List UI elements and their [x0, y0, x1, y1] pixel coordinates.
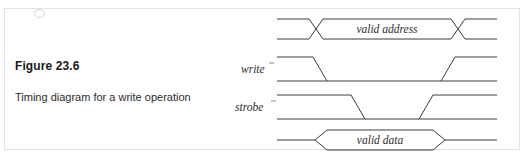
- write-signal-label: write: [241, 63, 265, 75]
- scan-artifact-icon: [34, 9, 45, 18]
- write-waveform-trace: [277, 57, 497, 81]
- strobe-waveform-trace: [277, 95, 497, 119]
- figure-caption-block: Figure 23.6 Timing diagram for a write o…: [15, 59, 235, 104]
- figure-caption-text: Timing diagram for a write operation: [15, 90, 235, 104]
- strobe-signal-label: strobe: [235, 101, 263, 113]
- figure-number: Figure 23.6: [15, 59, 235, 73]
- signal-row-address-bus: valid address: [277, 19, 497, 39]
- figure-card: Figure 23.6 Timing diagram for a write o…: [4, 8, 520, 150]
- address-bus-value-label: valid address: [356, 23, 418, 35]
- timing-waveform-area: valid address write strobe: [233, 9, 525, 151]
- timing-diagram-svg: valid address write strobe: [233, 9, 525, 151]
- signal-row-strobe: strobe: [235, 95, 497, 119]
- data-bus-value-label: valid data: [357, 134, 404, 146]
- signal-row-write: write: [241, 57, 497, 81]
- signal-row-data-bus: valid data: [277, 130, 497, 150]
